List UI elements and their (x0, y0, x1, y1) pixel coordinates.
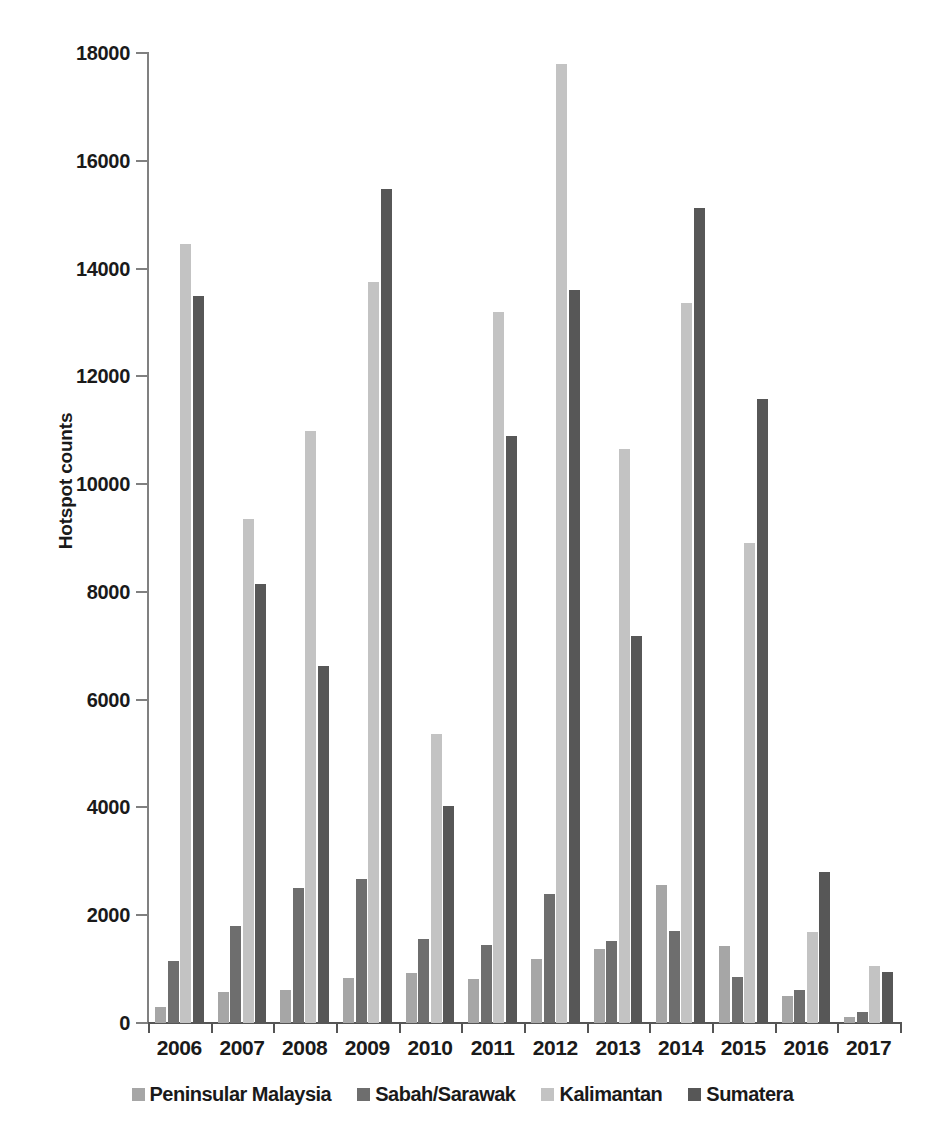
bar-2011-kalimantan[interactable] (493, 312, 504, 1023)
legend-label: Sabah/Sarawak (375, 1083, 515, 1106)
bar-2013-peninsular-malaysia[interactable] (594, 949, 605, 1023)
y-axis-tick (136, 806, 148, 808)
y-axis-tick (136, 591, 148, 593)
bar-2010-sabah-sarawak[interactable] (418, 939, 429, 1023)
bar-group-2009 (343, 53, 392, 1023)
x-axis-tick (712, 1024, 714, 1033)
bar-2010-sumatera[interactable] (443, 806, 454, 1023)
x-axis-tick (775, 1024, 777, 1033)
hotspot-counts-bar-chart: Hotspot counts 0200040006000800010000120… (0, 0, 925, 1135)
y-axis-tick-label: 12000 (12, 365, 130, 388)
legend-label: Kalimantan (559, 1083, 662, 1106)
legend-item-kalimantan[interactable]: Kalimantan (541, 1083, 662, 1106)
y-axis-tick (136, 160, 148, 162)
bar-2008-kalimantan[interactable] (305, 431, 316, 1023)
bar-2006-peninsular-malaysia[interactable] (155, 1007, 166, 1023)
bar-2009-kalimantan[interactable] (368, 282, 379, 1023)
legend-item-sabah-sarawak[interactable]: Sabah/Sarawak (357, 1083, 515, 1106)
bar-group-2013 (594, 53, 643, 1023)
bar-2014-peninsular-malaysia[interactable] (656, 885, 667, 1023)
bar-group-2016 (782, 53, 831, 1023)
bar-2016-sabah-sarawak[interactable] (794, 990, 805, 1023)
bar-2017-sabah-sarawak[interactable] (857, 1012, 868, 1023)
legend-item-sumatera[interactable]: Sumatera (688, 1083, 793, 1106)
y-axis-tick-labels: 0200040006000800010000120001400016000180… (0, 0, 130, 1135)
bar-2016-peninsular-malaysia[interactable] (782, 996, 793, 1023)
y-axis-tick (136, 268, 148, 270)
bar-2015-sabah-sarawak[interactable] (732, 977, 743, 1023)
bar-2007-sabah-sarawak[interactable] (230, 926, 241, 1023)
bar-2014-sabah-sarawak[interactable] (669, 931, 680, 1023)
bar-2009-sumatera[interactable] (381, 189, 392, 1023)
y-axis-tick-label: 10000 (12, 473, 130, 496)
x-axis-tick (273, 1024, 275, 1033)
bar-2008-sumatera[interactable] (318, 666, 329, 1023)
bar-2012-kalimantan[interactable] (556, 64, 567, 1023)
bar-2012-sumatera[interactable] (569, 290, 580, 1023)
bar-2013-kalimantan[interactable] (619, 449, 630, 1023)
bar-2011-sumatera[interactable] (506, 436, 517, 1023)
bar-2012-peninsular-malaysia[interactable] (531, 959, 542, 1023)
bar-2016-sumatera[interactable] (819, 872, 830, 1023)
x-axis-tick (211, 1024, 213, 1033)
bar-2011-sabah-sarawak[interactable] (481, 945, 492, 1023)
x-axis-tick (837, 1024, 839, 1033)
x-axis-tick (649, 1024, 651, 1033)
bar-group-2010 (406, 53, 455, 1023)
legend-label: Sumatera (706, 1083, 793, 1106)
legend-label: Peninsular Malaysia (150, 1083, 332, 1106)
x-axis-tick (587, 1024, 589, 1033)
bar-2010-peninsular-malaysia[interactable] (406, 973, 417, 1023)
y-axis-tick (136, 1022, 148, 1024)
bar-group-2014 (656, 53, 705, 1023)
x-axis-tick (148, 1024, 150, 1033)
legend-item-peninsular-malaysia[interactable]: Peninsular Malaysia (132, 1083, 332, 1106)
bar-2008-peninsular-malaysia[interactable] (280, 990, 291, 1023)
bar-group-2017 (844, 53, 893, 1023)
bar-group-2012 (531, 53, 580, 1023)
bar-group-2015 (719, 53, 768, 1023)
bar-2015-peninsular-malaysia[interactable] (719, 946, 730, 1023)
bar-2017-kalimantan[interactable] (869, 966, 880, 1023)
bar-2006-sumatera[interactable] (193, 296, 204, 1024)
x-axis-tick (336, 1024, 338, 1033)
bar-2013-sabah-sarawak[interactable] (606, 941, 617, 1023)
bar-2008-sabah-sarawak[interactable] (293, 888, 304, 1023)
y-axis-tick-label: 14000 (12, 257, 130, 280)
y-axis-tick-label: 2000 (12, 904, 130, 927)
bar-2006-kalimantan[interactable] (180, 244, 191, 1023)
legend-swatch-icon (688, 1088, 701, 1101)
legend-swatch-icon (132, 1088, 145, 1101)
bar-2017-peninsular-malaysia[interactable] (844, 1017, 855, 1023)
bar-2009-sabah-sarawak[interactable] (356, 879, 367, 1023)
bar-2011-peninsular-malaysia[interactable] (468, 979, 479, 1023)
x-axis-tick (900, 1024, 902, 1033)
y-axis-tick (136, 52, 148, 54)
y-axis-tick (136, 483, 148, 485)
bar-2007-peninsular-malaysia[interactable] (218, 992, 229, 1023)
bar-2007-kalimantan[interactable] (243, 519, 254, 1023)
bar-2015-sumatera[interactable] (757, 399, 768, 1023)
bar-2013-sumatera[interactable] (631, 636, 642, 1023)
bar-2017-sumatera[interactable] (882, 972, 893, 1023)
bar-2009-peninsular-malaysia[interactable] (343, 978, 354, 1023)
y-axis-tick-label: 6000 (12, 688, 130, 711)
bar-2016-kalimantan[interactable] (807, 932, 818, 1023)
bar-2014-sumatera[interactable] (694, 208, 705, 1023)
legend-swatch-icon (357, 1088, 370, 1101)
bar-2010-kalimantan[interactable] (431, 734, 442, 1023)
y-axis-tick (136, 914, 148, 916)
bar-2015-kalimantan[interactable] (744, 543, 755, 1023)
bar-2006-sabah-sarawak[interactable] (168, 961, 179, 1023)
x-axis-tick (399, 1024, 401, 1033)
y-axis-tick (136, 375, 148, 377)
x-axis-tick (524, 1024, 526, 1033)
y-axis-tick-label: 16000 (12, 149, 130, 172)
bar-2007-sumatera[interactable] (255, 584, 266, 1023)
y-axis-tick-label: 0 (12, 1012, 130, 1035)
y-axis-tick (136, 699, 148, 701)
bar-2012-sabah-sarawak[interactable] (544, 894, 555, 1023)
bar-2014-kalimantan[interactable] (681, 303, 692, 1023)
y-axis-tick-label: 18000 (12, 42, 130, 65)
x-axis-label-2017: 2017 (824, 1036, 914, 1060)
